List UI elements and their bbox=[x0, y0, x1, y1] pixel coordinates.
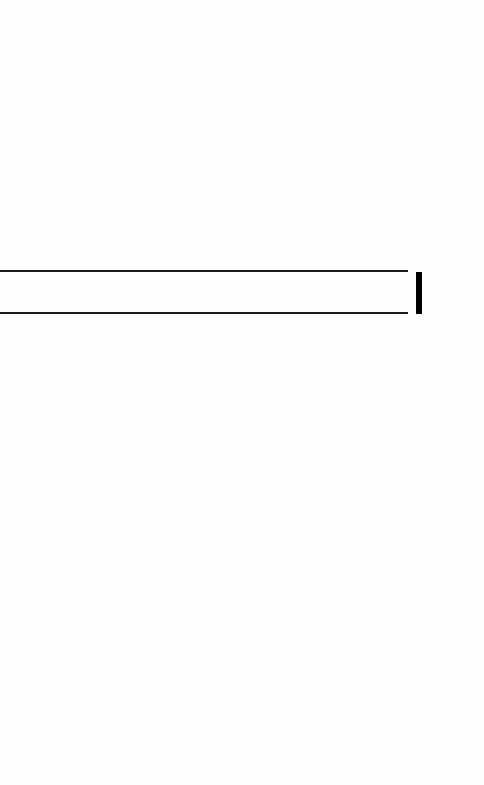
text-cursor-icon bbox=[416, 272, 422, 314]
screen bbox=[0, 0, 484, 785]
text-input[interactable] bbox=[0, 272, 408, 312]
text-input-field[interactable] bbox=[0, 270, 408, 314]
